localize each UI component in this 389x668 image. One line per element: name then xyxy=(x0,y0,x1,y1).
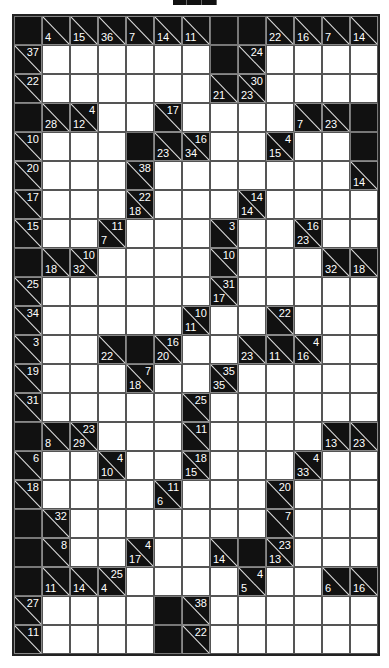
entry-cell[interactable] xyxy=(98,248,126,277)
entry-cell[interactable] xyxy=(266,219,294,248)
entry-cell[interactable] xyxy=(126,625,154,654)
entry-cell[interactable] xyxy=(98,480,126,509)
entry-cell[interactable] xyxy=(70,132,98,161)
entry-cell[interactable] xyxy=(294,161,322,190)
entry-cell[interactable] xyxy=(182,567,210,596)
entry-cell[interactable] xyxy=(126,248,154,277)
entry-cell[interactable] xyxy=(70,161,98,190)
entry-cell[interactable] xyxy=(126,103,154,132)
entry-cell[interactable] xyxy=(210,596,238,625)
entry-cell[interactable] xyxy=(154,393,182,422)
entry-cell[interactable] xyxy=(70,625,98,654)
entry-cell[interactable] xyxy=(42,451,70,480)
entry-cell[interactable] xyxy=(42,219,70,248)
entry-cell[interactable] xyxy=(322,596,350,625)
entry-cell[interactable] xyxy=(266,248,294,277)
entry-cell[interactable] xyxy=(294,596,322,625)
entry-cell[interactable] xyxy=(210,422,238,451)
entry-cell[interactable] xyxy=(98,538,126,567)
entry-cell[interactable] xyxy=(266,190,294,219)
entry-cell[interactable] xyxy=(126,393,154,422)
entry-cell[interactable] xyxy=(266,74,294,103)
entry-cell[interactable] xyxy=(294,74,322,103)
entry-cell[interactable] xyxy=(322,74,350,103)
entry-cell[interactable] xyxy=(350,364,378,393)
entry-cell[interactable] xyxy=(182,480,210,509)
entry-cell[interactable] xyxy=(182,190,210,219)
entry-cell[interactable] xyxy=(42,480,70,509)
entry-cell[interactable] xyxy=(126,567,154,596)
entry-cell[interactable] xyxy=(238,596,266,625)
entry-cell[interactable] xyxy=(210,625,238,654)
entry-cell[interactable] xyxy=(42,306,70,335)
entry-cell[interactable] xyxy=(266,277,294,306)
entry-cell[interactable] xyxy=(42,364,70,393)
entry-cell[interactable] xyxy=(322,335,350,364)
entry-cell[interactable] xyxy=(154,451,182,480)
entry-cell[interactable] xyxy=(350,393,378,422)
entry-cell[interactable] xyxy=(238,625,266,654)
entry-cell[interactable] xyxy=(126,451,154,480)
entry-cell[interactable] xyxy=(350,219,378,248)
entry-cell[interactable] xyxy=(42,132,70,161)
entry-cell[interactable] xyxy=(182,161,210,190)
entry-cell[interactable] xyxy=(70,190,98,219)
entry-cell[interactable] xyxy=(98,161,126,190)
entry-cell[interactable] xyxy=(182,277,210,306)
entry-cell[interactable] xyxy=(322,45,350,74)
entry-cell[interactable] xyxy=(182,45,210,74)
entry-cell[interactable] xyxy=(350,625,378,654)
entry-cell[interactable] xyxy=(294,538,322,567)
entry-cell[interactable] xyxy=(322,132,350,161)
entry-cell[interactable] xyxy=(182,364,210,393)
entry-cell[interactable] xyxy=(238,451,266,480)
entry-cell[interactable] xyxy=(42,161,70,190)
entry-cell[interactable] xyxy=(42,277,70,306)
entry-cell[interactable] xyxy=(294,277,322,306)
entry-cell[interactable] xyxy=(98,45,126,74)
entry-cell[interactable] xyxy=(350,451,378,480)
entry-cell[interactable] xyxy=(126,509,154,538)
entry-cell[interactable] xyxy=(294,190,322,219)
entry-cell[interactable] xyxy=(154,248,182,277)
entry-cell[interactable] xyxy=(266,422,294,451)
entry-cell[interactable] xyxy=(70,480,98,509)
entry-cell[interactable] xyxy=(98,132,126,161)
entry-cell[interactable] xyxy=(70,74,98,103)
entry-cell[interactable] xyxy=(322,161,350,190)
entry-cell[interactable] xyxy=(322,364,350,393)
entry-cell[interactable] xyxy=(322,190,350,219)
entry-cell[interactable] xyxy=(98,103,126,132)
entry-cell[interactable] xyxy=(238,364,266,393)
entry-cell[interactable] xyxy=(266,364,294,393)
entry-cell[interactable] xyxy=(294,364,322,393)
entry-cell[interactable] xyxy=(154,306,182,335)
entry-cell[interactable] xyxy=(322,393,350,422)
entry-cell[interactable] xyxy=(266,625,294,654)
entry-cell[interactable] xyxy=(182,219,210,248)
entry-cell[interactable] xyxy=(42,190,70,219)
entry-cell[interactable] xyxy=(154,190,182,219)
entry-cell[interactable] xyxy=(182,248,210,277)
entry-cell[interactable] xyxy=(70,596,98,625)
entry-cell[interactable] xyxy=(294,132,322,161)
entry-cell[interactable] xyxy=(126,45,154,74)
entry-cell[interactable] xyxy=(350,306,378,335)
entry-cell[interactable] xyxy=(238,219,266,248)
entry-cell[interactable] xyxy=(350,190,378,219)
entry-cell[interactable] xyxy=(350,538,378,567)
entry-cell[interactable] xyxy=(182,74,210,103)
entry-cell[interactable] xyxy=(70,335,98,364)
entry-cell[interactable] xyxy=(322,306,350,335)
entry-cell[interactable] xyxy=(266,393,294,422)
entry-cell[interactable] xyxy=(98,509,126,538)
entry-cell[interactable] xyxy=(182,103,210,132)
entry-cell[interactable] xyxy=(98,306,126,335)
entry-cell[interactable] xyxy=(210,190,238,219)
entry-cell[interactable] xyxy=(322,509,350,538)
entry-cell[interactable] xyxy=(42,74,70,103)
entry-cell[interactable] xyxy=(266,567,294,596)
entry-cell[interactable] xyxy=(210,103,238,132)
entry-cell[interactable] xyxy=(154,45,182,74)
entry-cell[interactable] xyxy=(210,132,238,161)
